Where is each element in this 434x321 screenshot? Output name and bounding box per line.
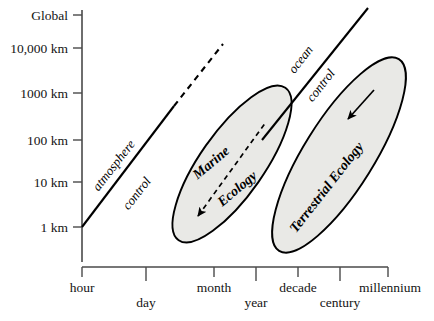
- y-label-10000km: 10,000 km: [10, 41, 68, 56]
- y-label-1km: 1 km: [41, 220, 69, 235]
- scale-diagram: Global 10,000 km 1000 km 100 km 10 km 1 …: [0, 0, 434, 321]
- x-label-month: month: [197, 280, 232, 295]
- x-label-century: century: [320, 295, 361, 310]
- y-label-10km: 10 km: [34, 175, 69, 190]
- x-label-hour: hour: [70, 280, 95, 295]
- x-label-decade: decade: [279, 280, 316, 295]
- y-label-global: Global: [31, 8, 68, 23]
- x-label-millennium: millennium: [359, 280, 422, 295]
- y-label-100km: 100 km: [27, 133, 68, 148]
- x-label-year: year: [244, 295, 268, 310]
- y-label-1000km: 1000 km: [20, 86, 68, 101]
- x-label-day: day: [136, 295, 156, 310]
